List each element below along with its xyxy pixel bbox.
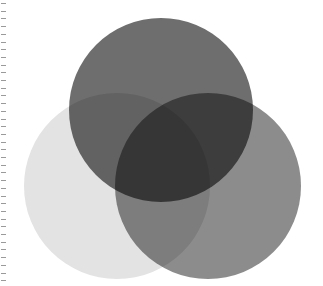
venn-diagram (0, 0, 323, 286)
venn-circle-right (115, 93, 301, 279)
